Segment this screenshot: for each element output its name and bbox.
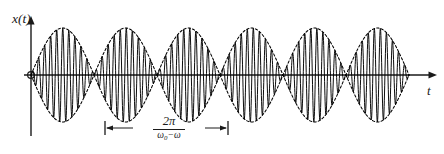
dimension-arrowhead-right xyxy=(220,126,227,131)
omega-zero-symbol: ω xyxy=(157,130,164,140)
beat-waveform-figure: x(t) t 2π ω0−ω xyxy=(0,0,444,154)
period-numerator: 2π xyxy=(153,115,185,128)
plot-canvas xyxy=(0,0,444,154)
period-denominator: ω0−ω xyxy=(153,130,185,141)
period-annotation: 2π ω0−ω xyxy=(134,115,204,141)
y-axis-label: x(t) xyxy=(12,12,31,26)
dimension-arrowhead-left xyxy=(106,126,113,131)
period-fraction: 2π ω0−ω xyxy=(153,115,185,141)
omega-symbol: ω xyxy=(174,130,181,140)
x-axis-arrowhead xyxy=(429,71,438,78)
x-axis-label: t xyxy=(427,84,431,97)
